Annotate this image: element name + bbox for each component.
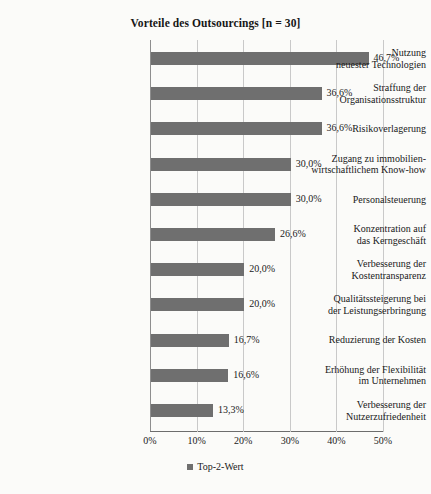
category-label-line: Qualitätssteigerung bei bbox=[285, 293, 426, 305]
bar[interactable] bbox=[151, 404, 213, 417]
category-label-line: neuester Technologien bbox=[285, 59, 426, 71]
bar[interactable] bbox=[151, 369, 228, 382]
category-label: Verbesserung derNutzerzufriedenheit bbox=[285, 399, 431, 422]
category-label: Straffung derOrganisationsstruktur bbox=[285, 82, 431, 105]
bar[interactable] bbox=[151, 228, 275, 241]
category-label-line: Risikoverlagerung bbox=[285, 123, 426, 135]
category-label-line: Verbesserung der bbox=[285, 399, 426, 411]
bar-value-label: 13,3% bbox=[218, 403, 244, 417]
bar-value-label: 20,0% bbox=[249, 262, 275, 276]
category-label: Risikoverlagerung bbox=[285, 123, 431, 135]
category-label-line: Personalsteuerung bbox=[285, 194, 426, 206]
category-label-line: Straffung der bbox=[285, 82, 426, 94]
category-label: Erhöhung der Flexibilitätim Unternehmen bbox=[285, 364, 431, 387]
bar-value-label: 20,0% bbox=[249, 297, 275, 311]
x-axis-tick-label: 40% bbox=[327, 435, 345, 446]
category-label-line: Erhöhung der Flexibilität bbox=[285, 364, 426, 376]
category-label: Personalsteuerung bbox=[285, 194, 431, 206]
category-label-line: Verbesserung der bbox=[285, 258, 426, 270]
bar-chart: Vorteile des Outsourcings [n = 30] 46,7%… bbox=[0, 0, 431, 494]
category-label-line: Nutzerzufriedenheit bbox=[285, 411, 426, 423]
bar[interactable] bbox=[151, 298, 244, 311]
bar[interactable] bbox=[151, 193, 291, 206]
category-label-line: Organisationsstruktur bbox=[285, 94, 426, 106]
category-label-line: wirtschaftlichem Know-how bbox=[285, 164, 426, 176]
category-label: Verbesserung derKostentransparenz bbox=[285, 258, 431, 281]
x-axis-line bbox=[150, 431, 383, 432]
category-label: Reduzierung der Kosten bbox=[285, 334, 431, 346]
chart-legend: Top-2-Wert bbox=[0, 462, 431, 472]
category-label-line: Kostentransparenz bbox=[285, 270, 426, 282]
x-axis-tick-label: 10% bbox=[187, 435, 205, 446]
category-label-line: Konzentration auf bbox=[285, 223, 426, 235]
x-axis-tick-label: 50% bbox=[374, 435, 392, 446]
bar-value-label: 16,7% bbox=[234, 333, 260, 347]
bar-value-label: 16,6% bbox=[233, 368, 259, 382]
category-label-line: der Leistungserbringung bbox=[285, 305, 426, 317]
category-label: Qualitätssteigerung beider Leistungserbr… bbox=[285, 293, 431, 316]
category-label-line: das Kerngeschäft bbox=[285, 235, 426, 247]
chart-title: Vorteile des Outsourcings [n = 30] bbox=[0, 17, 431, 29]
x-axis-tick-label: 0% bbox=[143, 435, 156, 446]
category-label-line: Nutzung bbox=[285, 47, 426, 59]
category-label-line: im Unternehmen bbox=[285, 375, 426, 387]
x-axis-tick-label: 20% bbox=[234, 435, 252, 446]
category-label-line: Zugang zu immobilien- bbox=[285, 153, 426, 165]
category-label-line: Reduzierung der Kosten bbox=[285, 334, 426, 346]
bar[interactable] bbox=[151, 263, 244, 276]
bar[interactable] bbox=[151, 158, 291, 171]
legend-label-top2: Top-2-Wert bbox=[197, 462, 243, 472]
legend-swatch-icon bbox=[187, 464, 193, 470]
x-axis-tick-label: 30% bbox=[281, 435, 299, 446]
bar[interactable] bbox=[151, 334, 229, 347]
category-label: Nutzungneuester Technologien bbox=[285, 47, 431, 70]
category-label: Zugang zu immobilien-wirtschaftlichem Kn… bbox=[285, 153, 431, 176]
category-label: Konzentration aufdas Kerngeschäft bbox=[285, 223, 431, 246]
